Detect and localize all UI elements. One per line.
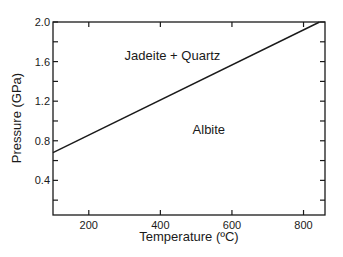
y-tick-label: 0.4 bbox=[35, 174, 50, 186]
y-tick-label: 1.6 bbox=[35, 56, 50, 68]
reaction-boundary-line bbox=[53, 22, 320, 153]
region-label-jadeite-quartz: Jadeite + Quartz bbox=[125, 48, 221, 63]
x-tick-label: 800 bbox=[294, 219, 312, 231]
y-tick-label: 0.8 bbox=[35, 135, 50, 147]
y-tick-label: 1.2 bbox=[35, 95, 50, 107]
x-axis-label: Temperature (ºC) bbox=[139, 229, 238, 244]
y-tick-label: 2.0 bbox=[35, 16, 50, 28]
region-label-albite: Albite bbox=[193, 122, 226, 137]
x-tick-label: 200 bbox=[80, 219, 98, 231]
phase-diagram-chart: 2004006008000.40.81.21.62.0 Jadeite + Qu… bbox=[0, 0, 343, 257]
boundary-line bbox=[53, 22, 320, 153]
y-axis-label: Pressure (GPa) bbox=[9, 73, 24, 163]
